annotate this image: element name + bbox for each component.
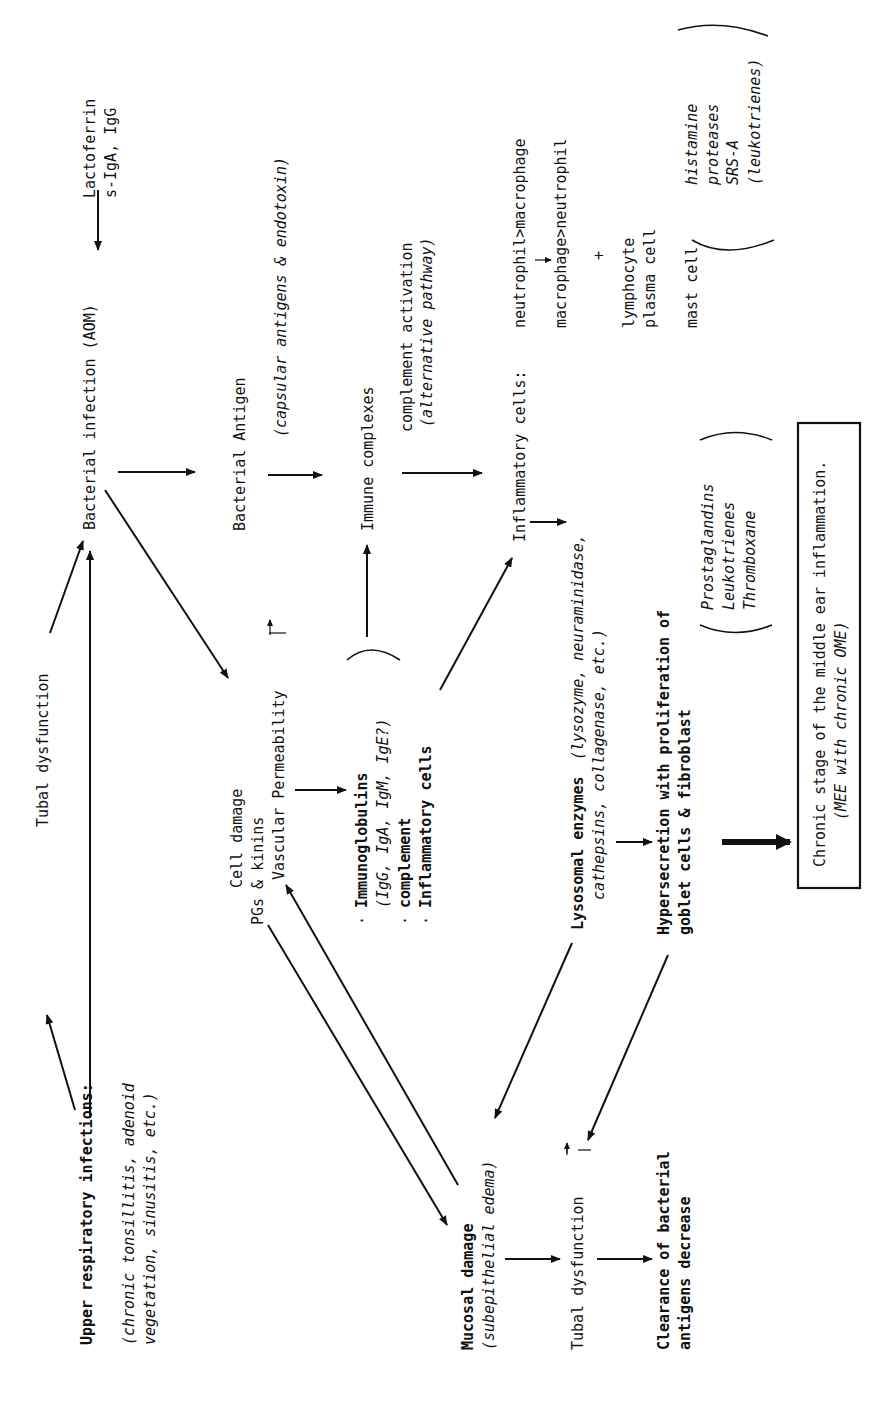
leukotrienes: Leukotrienes bbox=[720, 502, 738, 610]
mucosal-damage: Mucosal damage bbox=[459, 1224, 477, 1350]
tubal-dysfunction-top: Tubal dysfunction bbox=[34, 673, 52, 827]
complement: complement bbox=[396, 818, 414, 908]
chronic-stage-line2: (MEE with chronic OME) bbox=[832, 621, 850, 820]
lactoferrin-line1: Lactoferrin bbox=[81, 99, 99, 198]
mast-mediator-4: (leukotrienes) bbox=[746, 59, 764, 185]
arrow-bacterial-to-cell-damage bbox=[105, 490, 228, 678]
node-upper-respiratory: Upper respiratory infections: (chronic t… bbox=[78, 1082, 159, 1345]
immunoglobulins-sub: (IgG, IgA, IgM, IgE?) bbox=[374, 718, 392, 908]
bracket-mast-bottom bbox=[678, 25, 768, 36]
thromboxane: Thromboxane bbox=[741, 511, 759, 610]
inflammatory-cells-label: Inflammatory cells: bbox=[511, 370, 529, 542]
bracket-mediators-bottom bbox=[700, 433, 772, 441]
bacterial-antigen-sub: (capsular antigens & endotoxin) bbox=[272, 157, 290, 437]
plasma-cell: plasma cell bbox=[641, 229, 659, 328]
inflammatory-seq1: neutrophil>macrophage bbox=[511, 138, 529, 328]
plus-sign: + bbox=[590, 251, 608, 260]
inflammatory-cells-item: Inflammatory cells bbox=[417, 745, 435, 908]
mast-mediator-3: SRS-A bbox=[724, 140, 742, 185]
arrow-lysosomal-to-mucosal bbox=[495, 943, 572, 1118]
arrow-pgs-to-mucosal bbox=[268, 925, 447, 1225]
increase-marker-tubal bbox=[567, 1143, 591, 1155]
arrow-mucosal-to-permeability bbox=[286, 885, 458, 1185]
tubal-dysfunction-bottom: Tubal dysfunction bbox=[569, 1196, 587, 1350]
bullet-3: · bbox=[417, 916, 435, 925]
arrow-tubal-to-bacterial bbox=[50, 541, 83, 633]
complement-activation-sub: (alternative pathway) bbox=[418, 237, 436, 427]
clearance-line1: Clearance of bacterial bbox=[655, 1151, 673, 1350]
node-exudate: · Immunoglobulins (IgG, IgA, IgM, IgE?) … bbox=[353, 718, 435, 925]
vascular-permeability: Vascular Permeability bbox=[270, 690, 288, 880]
arrow-upper-to-tubal bbox=[47, 1015, 75, 1110]
lysosomal-sub1: (lysozyme, neuraminidase, bbox=[569, 534, 587, 760]
bacterial-antigen: Bacterial Antigen bbox=[231, 377, 249, 531]
prostaglandins: Prostaglandins bbox=[699, 484, 717, 610]
bracket-mediators-top bbox=[700, 625, 772, 633]
lactoferrin-line2: s-IgA, IgG bbox=[102, 108, 120, 198]
hypersecretion-line2: goblet cells & fibroblast bbox=[676, 709, 694, 935]
increase-marker-permeability bbox=[269, 620, 290, 635]
diagram-canvas: Upper respiratory infections: (chronic t… bbox=[0, 0, 889, 1414]
node-mediators: Prostaglandins Leukotrienes Thromboxane bbox=[699, 484, 759, 610]
complement-activation: complement activation bbox=[398, 242, 416, 432]
chronic-stage-line1: Chronic stage of the middle ear inflamma… bbox=[811, 461, 829, 867]
mast-mediator-1: histamine bbox=[683, 104, 701, 185]
lysosomal-sub2: cathepsins, collagenase, etc.) bbox=[590, 629, 608, 900]
upper-resp-sub1: (chronic tonsillitis, adenoid bbox=[120, 1082, 138, 1345]
pgs-kinins: PGs & kinins bbox=[249, 817, 267, 925]
bracket-mast-top bbox=[692, 240, 774, 250]
hypersecretion-line1: Hypersecretion with proliferation of bbox=[655, 610, 673, 935]
bacterial-infection: Bacterial infection (AOM) bbox=[81, 304, 99, 530]
chronic-stage-border bbox=[798, 423, 860, 888]
immune-complexes: Immune complexes bbox=[359, 387, 377, 532]
node-hypersecretion: Hypersecretion with proliferation of gob… bbox=[655, 610, 694, 935]
immunoglobulins: Immunoglobulins bbox=[353, 773, 371, 908]
inflammatory-seq2: macrophage>neutrophil bbox=[552, 138, 570, 328]
lymphocyte: lymphocyte bbox=[620, 238, 638, 328]
clearance-line2: antigens decrease bbox=[676, 1196, 694, 1350]
chronic-stage-box: Chronic stage of the middle ear inflamma… bbox=[798, 423, 860, 888]
node-cell-damage: Cell damage PGs & kinins Vascular Permea… bbox=[228, 690, 288, 925]
upper-resp-sub2: vegetation, sinusitis, etc.) bbox=[141, 1092, 159, 1345]
arrow-hypersecretion-to-tubal bbox=[588, 955, 668, 1140]
bullet-2: · bbox=[396, 916, 414, 925]
bullet-1: · bbox=[353, 916, 371, 925]
flow-diagram: Upper respiratory infections: (chronic t… bbox=[0, 0, 889, 1414]
mast-mediator-2: proteases bbox=[704, 104, 722, 186]
node-inflammatory-cells: Inflammatory cells: neutrophil>macrophag… bbox=[511, 59, 764, 542]
mucosal-damage-sub: (subepithelial edema) bbox=[480, 1160, 498, 1350]
upper-resp-title: Upper respiratory infections: bbox=[78, 1083, 96, 1345]
mast-cell: mast cell bbox=[683, 247, 701, 328]
lysosomal-enzymes: Lysosomal enzymes bbox=[569, 776, 587, 930]
arrow-exudate-to-inflammatory bbox=[440, 558, 512, 690]
bracket-exudate-top bbox=[347, 650, 400, 660]
node-lysosomal: Lysosomal enzymes (lysozyme, neuraminida… bbox=[569, 534, 608, 930]
cell-damage: Cell damage bbox=[228, 789, 246, 888]
